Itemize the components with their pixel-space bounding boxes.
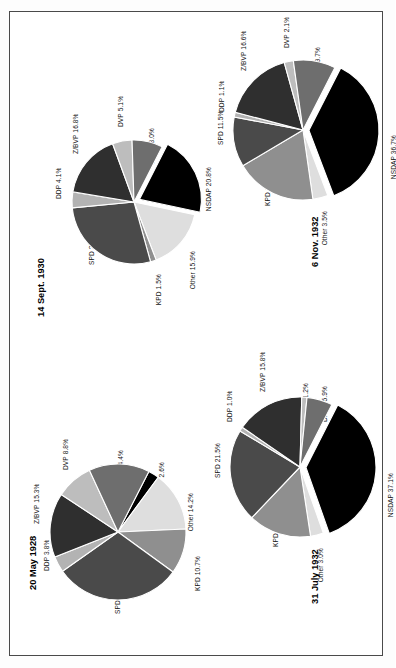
pie-label: NSDAP 36.7% [389,135,396,179]
figure-frame: NSDAP 20.8%Other 15.9%KPD 1.5%SPD 27.8%D… [9,11,383,656]
chart-title: 31 July 1932 [310,549,320,604]
pie-label: NSDAP 37.1% [386,473,393,517]
pie-svg [10,12,384,657]
